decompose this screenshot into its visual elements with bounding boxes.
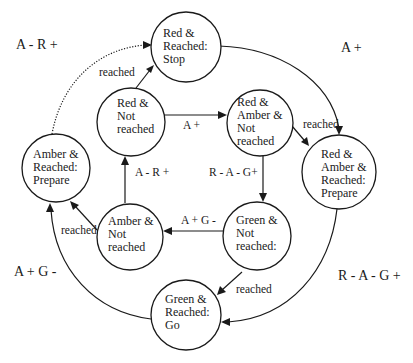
edge-red-not-to-red-reached <box>136 70 150 88</box>
state-red-amber-reached-prepare: Red & Amber & Reached: Prepare <box>302 135 376 209</box>
arrow-head <box>146 65 154 73</box>
arrow-head <box>221 318 230 326</box>
label-red-not-to-red-reached: reached <box>99 66 135 78</box>
label-red-amber-reached-to-green-reached: R - A - G + <box>338 268 401 283</box>
label-green-not-to-amber-not: A + G - <box>181 214 216 226</box>
label-amber-reached-to-red-reached: A - R + <box>16 37 58 52</box>
arrow-head <box>259 193 267 202</box>
state-red-reached-stop: Red & Reached: Stop <box>151 12 221 82</box>
state-green-reached-go: Green & Reached: Go <box>151 280 221 350</box>
label-red-amber-not-to-green-not: R - A - G+ <box>209 166 258 178</box>
state-red-not-reached: Red & Not reached <box>97 88 165 156</box>
state-amber-not-reached: Amber & Not reached <box>97 204 163 270</box>
arrow-head <box>218 111 227 119</box>
label-red-not-to-red-amber-not: A + <box>183 119 200 131</box>
label-red-amber-not-to-red-amber-reached: reached <box>303 118 339 130</box>
arrow-head <box>46 203 54 212</box>
label-amber-not-to-amber-reached: reached <box>61 224 97 236</box>
arrow-head <box>163 227 172 235</box>
arrow-head <box>121 156 129 165</box>
state-green-not-reached: Green & Not reached: <box>223 202 291 270</box>
label-green-reached-to-amber-reached: A + G - <box>14 264 57 279</box>
traffic-light-state-diagram: Red & Reached: Stop Red & Not reached Re… <box>0 0 413 363</box>
label-green-not-to-green-reached: reached <box>236 283 272 295</box>
state-amber-reached-prepare: Amber & Reached: Prepare <box>22 134 90 202</box>
label-red-reached-to-red-amber-reached: A + <box>341 40 362 55</box>
label-amber-not-to-red-not: A - R + <box>135 166 169 178</box>
state-red-amber-not-reached: Red & Amber & Not reached <box>227 90 293 156</box>
